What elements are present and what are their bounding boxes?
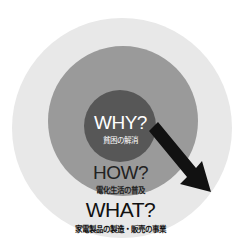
how-title: HOW? [0, 162, 241, 184]
why-subtitle: 貧困の解消 [0, 134, 241, 145]
why-title: WHY? [0, 112, 241, 134]
how-subtitle: 電化生活の普及 [0, 184, 241, 195]
what-subtitle: 家電製品の製造・販売の事業 [0, 223, 241, 234]
what-title: WHAT? [0, 198, 241, 222]
